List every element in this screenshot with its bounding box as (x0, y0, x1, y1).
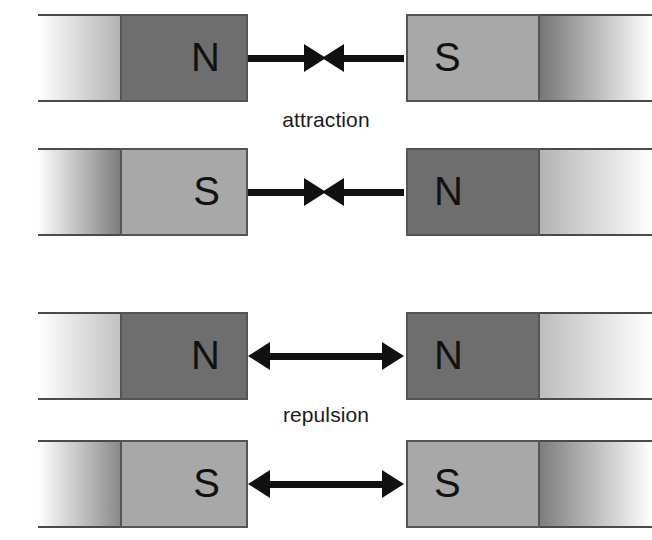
force-arrow-left (248, 179, 326, 205)
arrow-shaft (322, 481, 382, 488)
force-arrow-left (248, 471, 326, 497)
arrow-head-icon (382, 470, 404, 498)
magnet-left-pole-label: N (191, 37, 220, 77)
force-arrow-left (248, 45, 326, 71)
magnet-left-pole-block: N (120, 14, 248, 102)
force-arrow-right (322, 179, 404, 205)
arrow-head-icon (322, 178, 344, 206)
force-arrow-right (322, 45, 404, 71)
interaction-caption: attraction (0, 108, 652, 132)
force-arrow-left (248, 343, 326, 369)
arrow-shaft (248, 55, 304, 62)
magnet-right-pole-label: N (434, 171, 463, 211)
magnet-left: N (38, 312, 248, 400)
arrow-head-icon (322, 44, 344, 72)
magnet-right-faded-tail (540, 148, 652, 236)
magnet-left: S (38, 148, 248, 236)
magnet-pair-row: SN (0, 148, 652, 236)
magnet-pair-row: NN (0, 312, 652, 400)
magnet-right-pole-label: N (434, 335, 463, 375)
arrow-shaft (322, 353, 382, 360)
magnet-left: N (38, 14, 248, 102)
magnet-right: S (406, 14, 652, 102)
magnet-interaction-diagram: NSSNNNSSattractionrepulsion (0, 0, 652, 540)
magnet-left-faded-tail (38, 440, 120, 528)
magnet-right-pole-label: S (434, 37, 461, 77)
magnet-left-pole-label: S (193, 171, 220, 211)
force-arrow-right (322, 343, 404, 369)
magnet-left: S (38, 440, 248, 528)
magnet-right: N (406, 148, 652, 236)
arrow-shaft (344, 55, 404, 62)
arrow-shaft (344, 189, 404, 196)
arrow-head-icon (248, 342, 270, 370)
magnet-left-faded-tail (38, 14, 120, 102)
magnet-right-faded-tail (540, 440, 652, 528)
arrow-head-icon (248, 470, 270, 498)
arrow-shaft (248, 189, 304, 196)
magnet-pair-row: NS (0, 14, 652, 102)
magnet-right: N (406, 312, 652, 400)
magnet-right: S (406, 440, 652, 528)
magnet-right-pole-block: N (406, 312, 540, 400)
magnet-right-faded-tail (540, 14, 652, 102)
magnet-left-faded-tail (38, 312, 120, 400)
magnet-pair-row: SS (0, 440, 652, 528)
magnet-left-pole-block: N (120, 312, 248, 400)
magnet-left-faded-tail (38, 148, 120, 236)
magnet-right-faded-tail (540, 312, 652, 400)
arrow-shaft (270, 481, 326, 488)
magnet-left-pole-label: N (191, 335, 220, 375)
force-arrow-right (322, 471, 404, 497)
magnet-right-pole-label: S (434, 463, 461, 503)
magnet-right-pole-block: N (406, 148, 540, 236)
magnet-left-pole-block: S (120, 440, 248, 528)
arrow-shaft (270, 353, 326, 360)
magnet-right-pole-block: S (406, 14, 540, 102)
arrow-head-icon (382, 342, 404, 370)
magnet-right-pole-block: S (406, 440, 540, 528)
magnet-left-pole-label: S (193, 463, 220, 503)
interaction-caption: repulsion (0, 403, 652, 427)
magnet-left-pole-block: S (120, 148, 248, 236)
